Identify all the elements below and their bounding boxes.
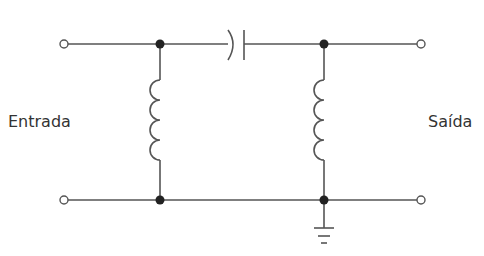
node-bottom-left [156, 196, 165, 205]
input-label: Entrada [8, 112, 71, 131]
terminal-output-bottom [417, 196, 425, 204]
inductor-right [314, 44, 324, 200]
output-label: Saída [428, 112, 472, 131]
terminal-input-top [60, 40, 68, 48]
terminal-input-bottom [60, 196, 68, 204]
capacitor-curved-plate [228, 30, 233, 60]
node-bottom-right [320, 196, 329, 205]
node-top-right [320, 40, 329, 49]
inductor-left [150, 44, 160, 200]
node-top-left [156, 40, 165, 49]
circuit-diagram [0, 0, 484, 256]
terminal-output-top [417, 40, 425, 48]
ground-icon [314, 200, 334, 243]
